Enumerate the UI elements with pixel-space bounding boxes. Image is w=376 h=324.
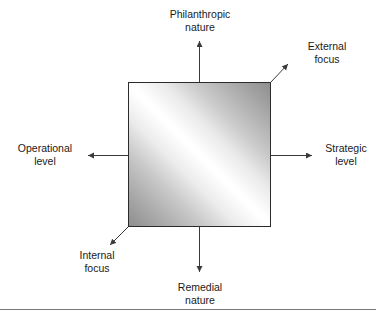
label-external-focus: External focus [284,40,370,65]
arrow-external-focus [271,64,288,82]
label-strategic-level: Strategic level [318,142,374,167]
label-line-2: focus [62,262,132,275]
label-line-2: nature [152,294,248,307]
label-line-2: nature [152,21,248,34]
label-line-1: External [284,40,370,53]
arrow-internal-focus [110,227,128,245]
label-line-2: level [6,155,84,168]
label-line-1: Internal [62,249,132,262]
label-operational-level: Operational level [6,142,84,167]
label-line-1: Operational [6,142,84,155]
gradient-matrix-square [128,82,271,227]
label-remedial-nature: Remedial nature [152,281,248,306]
label-line-2: level [318,155,374,168]
footer-divider [0,309,376,310]
diagram-canvas: Philanthropic nature External focus Oper… [0,0,376,324]
label-line-2: focus [284,53,370,66]
label-line-1: Philanthropic [152,8,248,21]
label-line-1: Strategic [318,142,374,155]
label-philanthropic-nature: Philanthropic nature [152,8,248,33]
label-internal-focus: Internal focus [62,249,132,274]
label-line-1: Remedial [152,281,248,294]
